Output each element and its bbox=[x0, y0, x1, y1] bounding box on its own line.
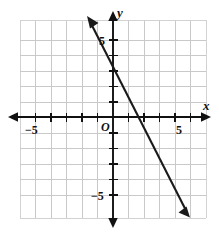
y-tick-label-pos5: 5 bbox=[99, 34, 105, 48]
coordinate-plane-svg: y x O −5 5 5 −5 bbox=[0, 0, 219, 233]
y-axis-label: y bbox=[115, 5, 123, 20]
y-axis bbox=[108, 11, 117, 228]
coordinate-plane-figure: y x O −5 5 5 −5 bbox=[0, 0, 219, 233]
x-tick-label-pos5: 5 bbox=[176, 123, 182, 137]
origin-label: O bbox=[101, 120, 110, 134]
y-tick-label-neg5: −5 bbox=[91, 189, 104, 203]
x-tick-label-neg5: −5 bbox=[25, 123, 38, 137]
y-axis-down-arrow-icon bbox=[108, 218, 117, 228]
x-axis-left-arrow-icon bbox=[8, 112, 18, 121]
x-axis-label: x bbox=[202, 98, 210, 113]
plotted-line-upper-arrow-icon bbox=[87, 16, 99, 29]
